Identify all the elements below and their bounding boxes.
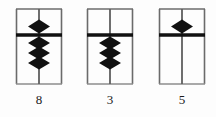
abacus-columns-diagram: 8 3 5 <box>0 0 216 117</box>
column-2-value-label: 3 <box>85 93 135 106</box>
abacus-column-2-graphic <box>85 0 135 92</box>
column-3-value-label: 5 <box>157 93 207 106</box>
heaven-bead[interactable] <box>171 20 193 34</box>
abacus-column-2: 3 <box>85 0 135 117</box>
heaven-bead[interactable] <box>28 20 50 34</box>
earth-bead[interactable] <box>28 57 50 70</box>
abacus-column-3: 5 <box>157 0 207 117</box>
abacus-column-1: 8 <box>14 0 64 117</box>
column-1-value-label: 8 <box>14 93 64 106</box>
earth-bead[interactable] <box>99 57 121 70</box>
abacus-column-1-graphic <box>14 0 64 92</box>
abacus-column-3-graphic <box>157 0 207 92</box>
